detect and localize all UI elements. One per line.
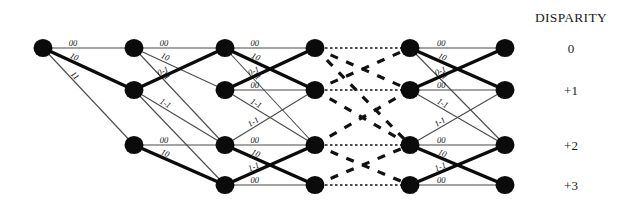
trellis-node bbox=[496, 176, 515, 194]
disparity-label-0: 0 bbox=[568, 41, 575, 56]
trellis-node bbox=[125, 136, 144, 154]
edge-label: 00 bbox=[250, 38, 259, 48]
edge-label: 00 bbox=[437, 80, 446, 90]
trellis-svg-canvas: 0010110010110-11-100100010110-1001-11-10… bbox=[0, 0, 624, 216]
trellis-node bbox=[306, 81, 325, 99]
disparity-label-2: +2 bbox=[564, 138, 578, 153]
trellis-node bbox=[306, 136, 325, 154]
edge-label: 00 bbox=[437, 175, 446, 185]
trellis-node bbox=[496, 81, 515, 99]
disparity-label-3: +3 bbox=[564, 178, 578, 193]
edge-label: 00 bbox=[437, 135, 446, 145]
trellis-node bbox=[496, 136, 515, 154]
trellis-node bbox=[125, 39, 144, 57]
trellis-node bbox=[401, 81, 420, 99]
trellis-node bbox=[216, 81, 235, 99]
trellis-node bbox=[125, 81, 144, 99]
edge-label: 00 bbox=[250, 135, 259, 145]
trellis-node bbox=[306, 39, 325, 57]
trellis-node bbox=[496, 39, 515, 57]
trellis-node bbox=[34, 39, 53, 57]
trellis-diagram-figure: 0010110010110-11-100100010110-1001-11-10… bbox=[0, 0, 624, 216]
edge-label: 00 bbox=[250, 80, 259, 90]
edge-label: 00 bbox=[250, 175, 259, 185]
trellis-node bbox=[216, 39, 235, 57]
disparity-label-1: +1 bbox=[564, 83, 578, 98]
edge-label: 00 bbox=[69, 38, 78, 48]
trellis-node bbox=[216, 176, 235, 194]
trellis-node bbox=[306, 176, 325, 194]
trellis-node bbox=[401, 39, 420, 57]
trellis-node bbox=[216, 136, 235, 154]
edge-label: 00 bbox=[437, 38, 446, 48]
disparity-axis-title: DISPARITY bbox=[535, 10, 607, 25]
trellis-node bbox=[401, 176, 420, 194]
edge-label: 00 bbox=[160, 135, 169, 145]
trellis-node bbox=[401, 136, 420, 154]
edge-label: 00 bbox=[160, 38, 169, 48]
